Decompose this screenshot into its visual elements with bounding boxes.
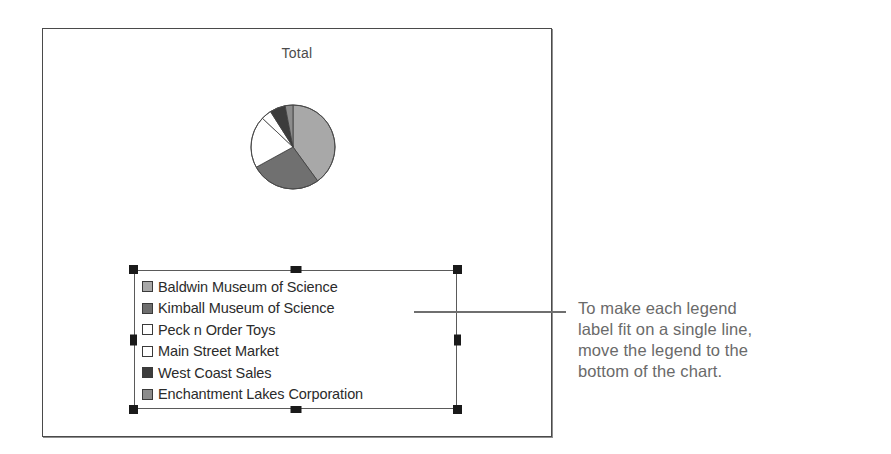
legend-item-label: Peck n Order Toys (158, 323, 275, 338)
legend-item-label: West Coast Sales (158, 366, 271, 381)
legend-selection[interactable]: Baldwin Museum of ScienceKimball Museum … (134, 270, 457, 409)
legend-item[interactable]: Kimball Museum of Science (142, 298, 454, 320)
callout-text: To make each legend label fit on a singl… (578, 298, 878, 382)
legend-item-label: Baldwin Museum of Science (158, 280, 338, 295)
legend-box[interactable]: Baldwin Museum of ScienceKimball Museum … (134, 270, 457, 409)
legend-item-label: Main Street Market (158, 344, 279, 359)
chart-frame[interactable]: Total Baldwin Museum of ScienceKimball M… (42, 28, 552, 437)
legend-swatch-icon (142, 281, 153, 292)
pie-chart-svg (248, 102, 338, 192)
resize-handle-middle-left[interactable] (130, 334, 137, 345)
legend-item[interactable]: Enchantment Lakes Corporation (142, 384, 454, 406)
callout-line-3: move the legend to the (578, 340, 878, 361)
callout-line-4: bottom of the chart. (578, 361, 878, 382)
resize-handle-bottom-left[interactable] (129, 405, 138, 414)
legend-item-label: Enchantment Lakes Corporation (158, 387, 363, 402)
legend-list: Baldwin Museum of ScienceKimball Museum … (142, 276, 454, 405)
resize-handle-top-right[interactable] (453, 265, 462, 274)
legend-item-label: Kimball Museum of Science (158, 301, 334, 316)
resize-handle-top-left[interactable] (129, 265, 138, 274)
legend-item[interactable]: West Coast Sales (142, 362, 454, 384)
callout-line-1: To make each legend (578, 298, 878, 319)
legend-item[interactable]: Baldwin Museum of Science (142, 276, 454, 298)
pie-chart[interactable] (248, 102, 338, 192)
resize-handle-middle-right[interactable] (454, 334, 461, 345)
legend-swatch-icon (142, 367, 153, 378)
legend-swatch-icon (142, 346, 153, 357)
chart-title: Total (43, 45, 551, 61)
resize-handle-bottom-right[interactable] (453, 405, 462, 414)
legend-item[interactable]: Peck n Order Toys (142, 319, 454, 341)
resize-handle-bottom-center[interactable] (290, 406, 301, 413)
callout-line-2: label fit on a single line, (578, 319, 878, 340)
callout-leader-line (414, 311, 566, 313)
legend-swatch-icon (142, 389, 153, 400)
legend-swatch-icon (142, 303, 153, 314)
resize-handle-top-center[interactable] (290, 266, 301, 273)
legend-swatch-icon (142, 324, 153, 335)
legend-item[interactable]: Main Street Market (142, 341, 454, 363)
